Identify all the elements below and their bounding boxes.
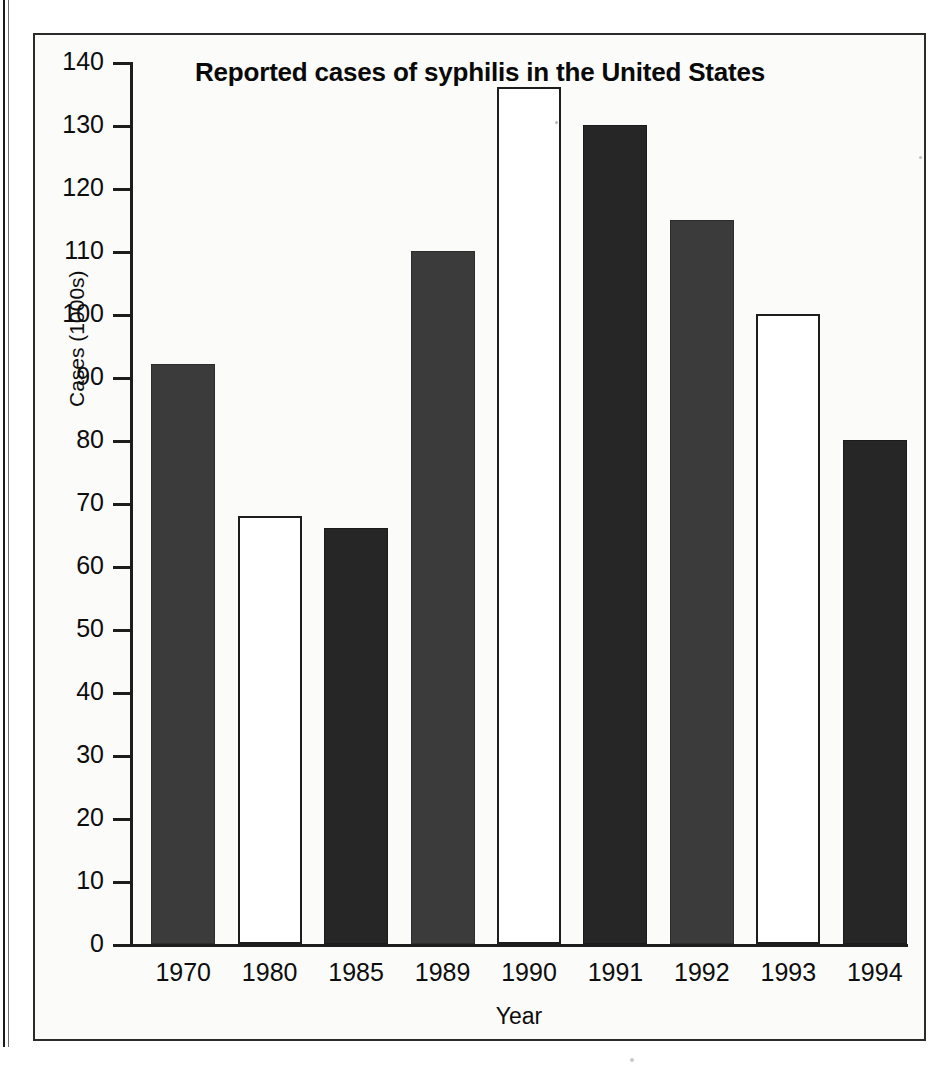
y-axis-tick-label: 30 <box>76 742 104 767</box>
x-axis-tick-label: 1992 <box>659 958 745 987</box>
y-axis-tick-label: 70 <box>76 490 104 515</box>
y-axis-tick: 50 <box>113 629 133 632</box>
y-axis-tick: 90 <box>113 377 133 380</box>
y-axis-tick-label: 140 <box>62 49 104 74</box>
x-axis-tick-label: 1990 <box>486 958 572 987</box>
bar-1994[interactable] <box>843 440 907 944</box>
bar-1993[interactable] <box>756 314 820 944</box>
bar-1970[interactable] <box>151 364 215 944</box>
y-axis-tick: 100 <box>113 314 133 317</box>
y-axis-tick-label: 130 <box>62 112 104 137</box>
y-axis-tick: 80 <box>113 440 133 443</box>
y-axis-tick: 40 <box>113 692 133 695</box>
bar-1990[interactable] <box>497 87 561 944</box>
y-axis-tick: 20 <box>113 818 133 821</box>
y-axis-tick-label: 110 <box>64 238 104 263</box>
y-axis-tick-label: 40 <box>76 679 104 704</box>
y-axis-tick-label: 60 <box>76 553 104 578</box>
y-axis-tick-label: 10 <box>76 868 104 893</box>
x-axis-tick-label: 1991 <box>572 958 658 987</box>
x-axis-line <box>130 944 908 947</box>
y-axis-tick: 110 <box>113 251 133 254</box>
y-axis-tick: 130 <box>113 125 133 128</box>
x-axis-tick-label: 1993 <box>745 958 831 987</box>
bar-1985[interactable] <box>324 528 388 944</box>
y-axis-tick: 0 <box>113 944 133 947</box>
bar-1992[interactable] <box>670 220 734 945</box>
scan-artifact-speck <box>919 156 922 159</box>
scan-artifact-speck <box>555 121 558 124</box>
scan-artifact-speck <box>630 1058 634 1062</box>
bar-1989[interactable] <box>411 251 475 944</box>
bar-1980[interactable] <box>238 516 302 944</box>
page-edge-rule <box>3 0 9 1047</box>
y-axis-tick: 120 <box>113 188 133 191</box>
y-axis-tick: 30 <box>113 755 133 758</box>
y-axis-tick-label: 20 <box>76 805 104 830</box>
x-axis-tick-label: 1970 <box>140 958 226 987</box>
y-axis-tick: 140 <box>113 62 133 65</box>
figure-frame: Reported cases of syphilis in the United… <box>33 33 926 1041</box>
y-axis-tick-label: 0 <box>90 931 104 956</box>
x-axis-tick-label: 1980 <box>226 958 312 987</box>
x-axis-tick-label: 1989 <box>399 958 485 987</box>
plot-area: 0102030405060708090100110120130140 19701… <box>130 55 910 954</box>
x-axis-tick-label: 1985 <box>313 958 399 987</box>
y-axis-tick: 10 <box>113 881 133 884</box>
y-axis-tick-label: 120 <box>62 175 104 200</box>
y-axis-tick-label: 80 <box>76 427 104 452</box>
y-axis-tick: 70 <box>113 503 133 506</box>
y-axis-tick-label: 100 <box>62 301 104 326</box>
y-axis-tick-label: 90 <box>76 364 104 389</box>
y-axis-tick: 60 <box>113 566 133 569</box>
y-axis-tick-label: 50 <box>76 616 104 641</box>
x-axis-title: Year <box>130 1003 908 1030</box>
x-axis-tick-label: 1994 <box>832 958 918 987</box>
bar-1991[interactable] <box>583 125 647 944</box>
